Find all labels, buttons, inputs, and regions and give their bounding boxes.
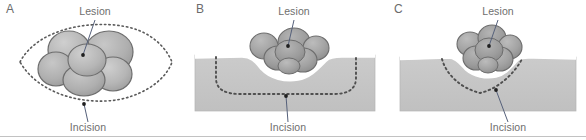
incision-label-a: Incision <box>70 121 106 132</box>
panel-c-illustration: Lesion Incision <box>388 0 583 132</box>
lesion-excision-figure: A <box>0 0 586 140</box>
panel-a: A <box>0 0 195 132</box>
lesion-label-c: Lesion <box>482 5 514 17</box>
panel-c: C <box>388 0 583 132</box>
lesion-leader-dot-b <box>286 44 290 48</box>
lesion-label-b: Lesion <box>278 5 310 17</box>
lesion-leader-dot-a <box>81 53 85 57</box>
lesion-leader-dot-c <box>487 44 491 48</box>
incision-leader-a <box>84 104 88 122</box>
lesion-label-a: Lesion <box>79 5 111 17</box>
lesion-mass-a <box>38 31 133 96</box>
panel-b: B <box>190 0 385 132</box>
figure-baseline-rule <box>0 136 586 137</box>
panel-b-illustration: Lesion Incision <box>190 0 385 132</box>
incision-leader-dot-c <box>494 88 498 92</box>
incision-label-c: Incision <box>490 121 526 132</box>
panel-a-illustration: Lesion Incision <box>0 0 195 132</box>
incision-leader-dot-b <box>284 94 288 98</box>
incision-label-b: Incision <box>270 121 306 132</box>
incision-leader-dot-a <box>82 102 86 106</box>
